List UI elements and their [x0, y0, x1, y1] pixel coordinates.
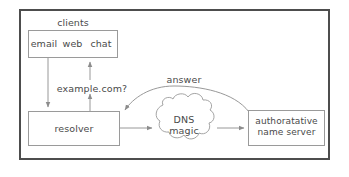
dns-magic-line2: magic: [169, 125, 198, 136]
authoritative-line1: authoratative: [255, 116, 317, 126]
edge-label-query: example.com?: [46, 83, 138, 94]
resolver-label: resolver: [28, 123, 120, 134]
dns-magic-line1: DNS: [174, 114, 195, 125]
authoritative-label: authoratative name server: [248, 116, 325, 137]
diagram-canvas: clients email web chat resolver DNS magi…: [0, 0, 349, 177]
clients-caption: clients: [28, 17, 118, 28]
clients-segment-email: email: [30, 38, 58, 49]
edge-label-answer: answer: [157, 74, 211, 85]
dns-magic-label: DNS magic: [152, 114, 216, 136]
clients-segment-web: web: [60, 38, 85, 49]
clients-segment-chat: chat: [88, 38, 114, 49]
authoritative-line2: name server: [258, 127, 316, 137]
